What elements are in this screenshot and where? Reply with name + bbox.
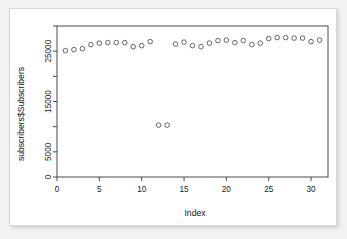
y-axis: 050001500025000	[44, 26, 57, 179]
data-point	[72, 47, 77, 52]
data-point	[317, 38, 322, 43]
frame-box	[57, 26, 328, 177]
y-tick-label: 0	[44, 174, 53, 179]
x-axis: 051015202530	[55, 177, 316, 194]
data-point	[275, 35, 280, 40]
x-tick-label: 10	[137, 185, 147, 194]
data-point	[97, 41, 102, 46]
x-tick-label: 5	[97, 185, 102, 194]
screenshot-root: subscribers$Subscribers Index 0500015000…	[0, 0, 347, 239]
data-point	[165, 123, 170, 128]
y-tick-label: 5000	[44, 142, 53, 161]
data-point	[309, 39, 314, 44]
data-point	[139, 43, 144, 48]
data-point	[80, 46, 85, 51]
data-point	[216, 38, 221, 43]
data-points	[63, 35, 322, 127]
data-point	[233, 40, 238, 45]
x-axis-title: Index	[184, 208, 206, 218]
y-tick-label: 25000	[44, 39, 53, 62]
data-point	[156, 123, 161, 128]
data-point	[182, 40, 187, 45]
y-tick-label: 15000	[44, 90, 53, 113]
plot-frame	[57, 26, 328, 177]
x-tick-label: 0	[55, 185, 60, 194]
data-point	[89, 42, 94, 47]
data-point	[300, 36, 305, 41]
data-point	[224, 38, 229, 43]
data-point	[266, 36, 271, 41]
x-tick-label: 25	[264, 185, 274, 194]
x-tick-label: 20	[222, 185, 232, 194]
data-point	[122, 40, 127, 45]
data-point	[190, 43, 195, 48]
data-point	[148, 39, 153, 44]
data-point	[106, 40, 111, 45]
data-point	[63, 48, 68, 53]
data-point	[199, 44, 204, 49]
y-axis-title: subscribers$Subscribers	[16, 67, 26, 161]
x-tick-label: 30	[307, 185, 317, 194]
scatter-plot: subscribers$Subscribers Index 0500015000…	[10, 9, 336, 225]
plot-card: subscribers$Subscribers Index 0500015000…	[9, 8, 337, 226]
data-point	[258, 41, 263, 46]
data-point	[249, 42, 254, 47]
data-point	[283, 35, 288, 40]
data-point	[292, 36, 297, 41]
data-point	[207, 41, 212, 46]
data-point	[173, 42, 178, 47]
data-point	[114, 40, 119, 45]
data-point	[131, 44, 136, 49]
data-point	[241, 38, 246, 43]
x-tick-label: 15	[179, 185, 189, 194]
